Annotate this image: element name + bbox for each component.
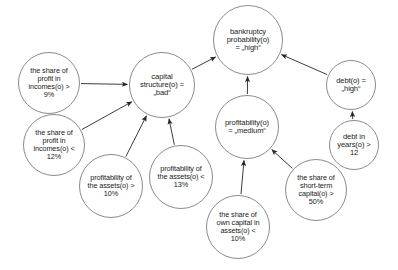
node-profitability-assets-lt-13[interactable]: profitability of the assets(o) < 13% [149, 145, 213, 209]
node-label-profitability-assets-lt-13: profitability of the assets(o) < 13% [150, 165, 212, 189]
edge-debt-high-to-bankruptcy [281, 55, 327, 75]
node-profit-in-incomes-lt-12[interactable]: the share of profit in incomes(o) < 12% [23, 114, 85, 176]
edge-short-term-capital-gt-50-to-profitability-medium [272, 150, 293, 169]
node-label-debt-in-years-gt-12: debt in years(o) > 12 [330, 133, 378, 158]
edge-profitability-assets-gt-10-to-capital-structure [126, 116, 147, 157]
node-profitability-assets-gt-10[interactable]: profitability of the assets(o) > 10% [79, 154, 143, 218]
node-own-capital-lt-10[interactable]: the share of own capital in assets(o) < … [206, 195, 270, 259]
edge-own-capital-lt-10-to-profitability-medium [241, 160, 244, 194]
node-short-term-capital-gt-50[interactable]: the share of short-term capital(o) > 50% [285, 159, 347, 221]
causal-network-diagram: bankruptcy probability(o) = „high“the sh… [0, 0, 398, 270]
node-label-capital-structure: capital structure(o) = „bad“ [130, 73, 194, 98]
node-profitability-medium[interactable]: profitability(o) = „medium“ [215, 95, 279, 159]
edge-profit-in-incomes-gt-9-to-capital-structure [81, 84, 128, 85]
node-bankruptcy[interactable]: bankruptcy probability(o) = „high“ [213, 5, 283, 75]
node-label-bankruptcy: bankruptcy probability(o) = „high“ [214, 28, 282, 53]
edge-profit-in-incomes-lt-12-to-capital-structure [82, 102, 132, 130]
node-capital-structure[interactable]: capital structure(o) = „bad“ [129, 52, 195, 118]
node-label-own-capital-lt-10: the share of own capital in assets(o) < … [207, 211, 269, 243]
node-debt-in-years-gt-12[interactable]: debt in years(o) > 12 [329, 120, 379, 170]
node-label-profit-in-incomes-lt-12: the share of profit in incomes(o) < 12% [24, 129, 84, 161]
edge-capital-structure-to-bankruptcy [192, 57, 216, 69]
node-debt-high[interactable]: debt(o) = „high“ [326, 60, 376, 110]
node-label-profit-in-incomes-gt-9: the share of profit in incomes(o) > 9% [19, 67, 79, 99]
node-profit-in-incomes-gt-9[interactable]: the share of profit in incomes(o) > 9% [18, 52, 80, 114]
node-label-debt-high: debt(o) = „high“ [327, 77, 375, 93]
node-label-profitability-assets-gt-10: profitability of the assets(o) > 10% [80, 174, 142, 198]
edge-profitability-assets-lt-13-to-capital-structure [169, 119, 174, 145]
node-label-profitability-medium: profitability(o) = „medium“ [216, 119, 278, 135]
node-label-short-term-capital-gt-50: the share of short-term capital(o) > 50% [286, 174, 346, 206]
